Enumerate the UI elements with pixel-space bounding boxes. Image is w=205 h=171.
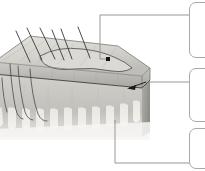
skin-illustration <box>0 0 205 171</box>
callout-text-1 <box>190 3 205 9</box>
callout-box-2[interactable] <box>189 68 205 122</box>
callout-text-3 <box>190 129 205 135</box>
leader-dot-marker <box>106 57 110 61</box>
skin-diagram-figure <box>0 0 205 171</box>
callout-text-2 <box>190 69 205 75</box>
callout-box-3[interactable] <box>189 128 205 169</box>
callout-box-1[interactable] <box>189 2 205 58</box>
